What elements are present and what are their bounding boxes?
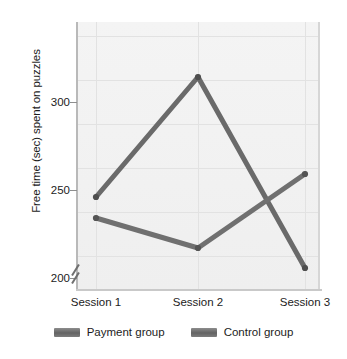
legend-swatch-payment-icon	[54, 328, 80, 337]
legend-item-payment-group: Payment group	[54, 326, 165, 338]
legend-swatch-control-icon	[191, 328, 217, 337]
series-layer	[0, 0, 347, 359]
data-point-payment-session-2	[195, 74, 201, 80]
data-point-payment-session-3	[302, 265, 308, 271]
series-payment-group-line	[96, 77, 305, 268]
legend-item-control-group: Control group	[191, 326, 294, 338]
legend-label-control-group: Control group	[224, 326, 294, 338]
series-payment-group	[93, 74, 308, 271]
legend-label-payment-group: Payment group	[87, 326, 165, 338]
data-point-payment-session-1	[93, 194, 99, 200]
data-point-control-session-3	[302, 171, 308, 177]
data-point-control-session-2	[195, 245, 201, 251]
line-chart-figure: Free time (sec) spent on puzzles 300 250…	[0, 0, 347, 359]
data-point-control-session-1	[93, 215, 99, 221]
chart-legend: Payment group Control group	[0, 326, 347, 338]
